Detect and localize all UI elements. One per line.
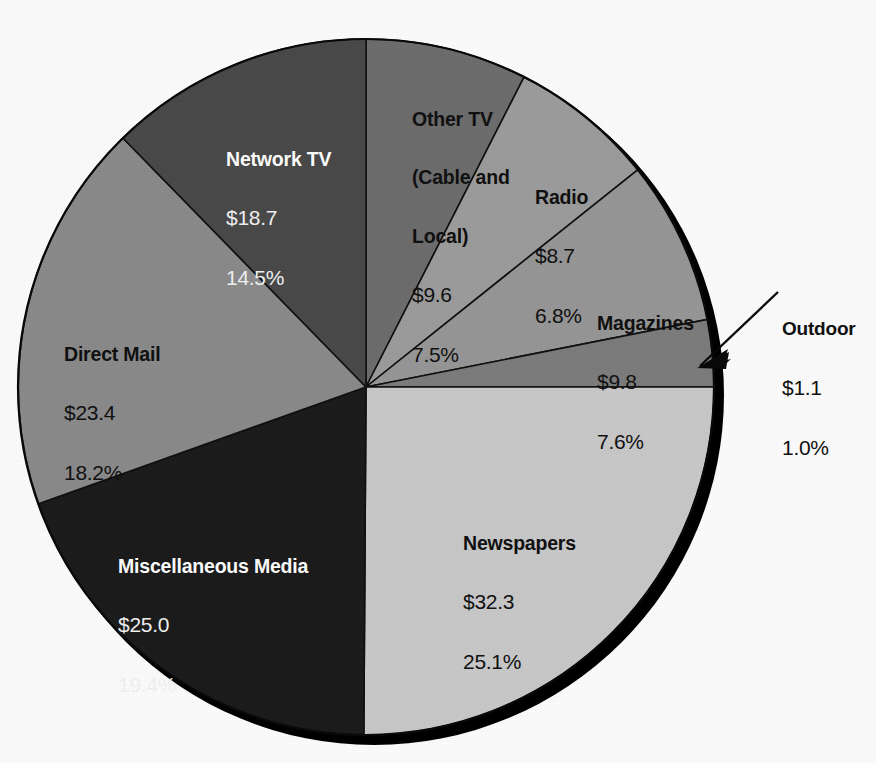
slice-name-network-tv: Network TV bbox=[226, 148, 331, 170]
slice-name-radio: Radio bbox=[535, 186, 588, 208]
slice-value-direct-mail: $23.4 bbox=[64, 401, 160, 425]
slice-label-other-tv: Other TV (Cable and Local) $9.6 7.5% bbox=[412, 72, 510, 402]
slice-value-magazines: $9.8 bbox=[597, 370, 694, 394]
slice-name-misc-media: Miscellaneous Media bbox=[118, 555, 308, 577]
slice-percent-outdoor: 1.0% bbox=[782, 436, 856, 460]
slice-label-radio: Radio $8.7 6.8% bbox=[535, 150, 588, 364]
slice-percent-newspapers: 25.1% bbox=[463, 650, 576, 674]
slice-value-outdoor: $1.1 bbox=[782, 376, 856, 400]
slice-label-network-tv: Network TV $18.7 14.5% bbox=[226, 112, 331, 326]
slice-percent-misc-media: 19.4% bbox=[118, 673, 308, 697]
slice-label-outdoor: Outdoor $1.1 1.0% bbox=[782, 282, 856, 496]
slice-value-other-tv: $9.6 bbox=[412, 283, 510, 307]
slice-percent-magazines: 7.6% bbox=[597, 430, 694, 454]
slice-name-direct-mail: Direct Mail bbox=[64, 343, 160, 365]
slice-percent-network-tv: 14.5% bbox=[226, 266, 331, 290]
slice-value-misc-media: $25.0 bbox=[118, 613, 308, 637]
pie-chart: Network TV $18.7 14.5% Other TV (Cable a… bbox=[0, 0, 876, 763]
slice-label-misc-media: Miscellaneous Media $25.0 19.4% bbox=[118, 519, 308, 733]
slice-name-other-tv-line1: Other TV bbox=[412, 108, 510, 130]
slice-name-other-tv-line2: (Cable and bbox=[412, 166, 510, 188]
slice-name-magazines: Magazines bbox=[597, 312, 694, 334]
slice-percent-radio: 6.8% bbox=[535, 304, 588, 328]
slice-name-other-tv-line3: Local) bbox=[412, 225, 510, 247]
slice-percent-other-tv: 7.5% bbox=[412, 343, 510, 367]
slice-percent-direct-mail: 18.2% bbox=[64, 461, 160, 485]
slice-label-newspapers: Newspapers $32.3 25.1% bbox=[463, 496, 576, 710]
slice-value-newspapers: $32.3 bbox=[463, 590, 576, 614]
slice-label-direct-mail: Direct Mail $23.4 18.2% bbox=[64, 307, 160, 521]
slice-value-radio: $8.7 bbox=[535, 244, 588, 268]
slice-value-network-tv: $18.7 bbox=[226, 206, 331, 230]
slice-label-magazines: Magazines $9.8 7.6% bbox=[597, 276, 694, 490]
slice-name-outdoor: Outdoor bbox=[782, 318, 856, 339]
slice-name-newspapers: Newspapers bbox=[463, 532, 576, 554]
